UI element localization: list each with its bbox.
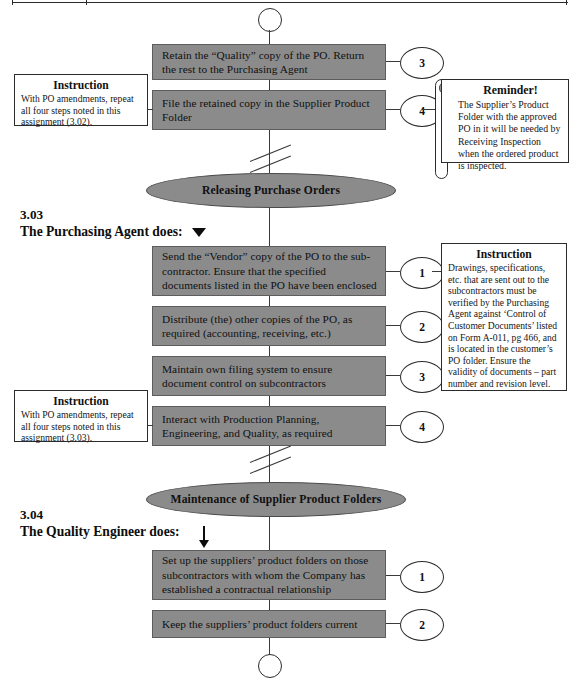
step-number-label: 1 bbox=[419, 571, 425, 583]
process-text: Interact with Production Planning, Engin… bbox=[162, 412, 377, 441]
spine-303-b bbox=[269, 346, 270, 356]
top-connector-circle bbox=[258, 8, 282, 32]
spine-304-a bbox=[269, 600, 270, 610]
num-leg-303-step3 bbox=[386, 375, 400, 376]
section-304-arrow-head-icon bbox=[199, 540, 209, 548]
process-box-304-step2[interactable]: Keep the suppliers’ product folders curr… bbox=[152, 610, 386, 638]
step-number-304-step1: 1 bbox=[400, 561, 444, 593]
note-leg-303-left bbox=[148, 425, 153, 426]
top-rule-tick-left bbox=[12, 0, 13, 5]
num-leg-303-step1 bbox=[386, 271, 400, 272]
process-text: Retain the “Quality” copy of the PO. Ret… bbox=[162, 48, 377, 77]
step-number-label: 3 bbox=[419, 371, 425, 383]
spine-stage1-out bbox=[269, 208, 270, 246]
step-number-303-step3: 3 bbox=[400, 361, 444, 393]
section-title-303: The Purchasing Agent does: bbox=[20, 224, 183, 240]
step-number-label: 4 bbox=[419, 421, 425, 433]
note-title: Instruction bbox=[21, 395, 141, 408]
stage-ellipse-maintenance-of-supplier-product-folders: Maintenance of Supplier Product Folders bbox=[146, 482, 406, 517]
process-text: Maintain own filing system to ensure doc… bbox=[162, 362, 377, 391]
reminder-body: The Supplier’s Product Folder with the a… bbox=[458, 99, 563, 172]
note-body: With PO amendments, repeat all four step… bbox=[21, 409, 141, 444]
top-rule-tick-mid bbox=[86, 0, 87, 5]
spine-top bbox=[269, 30, 270, 44]
spine-302-a bbox=[269, 80, 270, 90]
flowchart-page: Retain the “Quality” copy of the PO. Ret… bbox=[0, 0, 572, 679]
process-text: Set up the suppliers’ product folders on… bbox=[162, 553, 377, 596]
section-number-303: 3.03 bbox=[20, 207, 43, 223]
note-title: Instruction bbox=[21, 79, 141, 92]
process-text: Distribute (the) other copies of the PO,… bbox=[162, 312, 377, 341]
step-number-label: 2 bbox=[419, 619, 425, 631]
instruction-note-303-left: Instruction With PO amendments, repeat a… bbox=[14, 390, 148, 442]
process-text: File the retained copy in the Supplier P… bbox=[162, 96, 377, 125]
spine-stage2-out bbox=[269, 517, 270, 550]
note-leg-303-right bbox=[432, 271, 441, 272]
num-leg-303-step2 bbox=[386, 325, 400, 326]
step-number-304-step2: 2 bbox=[400, 609, 444, 641]
process-box-302-step3[interactable]: Retain the “Quality” copy of the PO. Ret… bbox=[152, 44, 386, 80]
instruction-note-302: Instruction With PO amendments, repeat a… bbox=[14, 74, 148, 126]
process-box-303-step2[interactable]: Distribute (the) other copies of the PO,… bbox=[152, 306, 386, 346]
step-number-303-step1: 1 bbox=[400, 257, 444, 289]
note-body: Drawings, specifications, etc. that are … bbox=[448, 262, 560, 390]
spine-303-a bbox=[269, 296, 270, 306]
num-leg-302-step3 bbox=[386, 61, 400, 62]
step-number-303-step4: 4 bbox=[400, 411, 444, 443]
section-title-304: The Quality Engineer does: bbox=[20, 524, 180, 540]
num-leg-304-step2 bbox=[386, 623, 400, 624]
spine-bottom bbox=[269, 638, 270, 655]
step-number-label: 1 bbox=[419, 267, 425, 279]
stage-label: Releasing Purchase Orders bbox=[202, 184, 340, 197]
note-leg-302 bbox=[148, 109, 153, 110]
reminder-note: Reminder! The Supplier’s Product Folder … bbox=[441, 79, 569, 163]
spine-303-c bbox=[269, 396, 270, 406]
process-text: Send the “Vendor” copy of the PO to the … bbox=[162, 249, 377, 292]
stage-label: Maintenance of Supplier Product Folders bbox=[171, 493, 382, 506]
step-number-label: 3 bbox=[419, 57, 425, 69]
reminder-leg bbox=[422, 109, 436, 110]
process-box-302-step4[interactable]: File the retained copy in the Supplier P… bbox=[152, 90, 386, 130]
stage-ellipse-releasing-purchase-orders: Releasing Purchase Orders bbox=[146, 173, 396, 208]
step-number-302-step3: 3 bbox=[400, 47, 444, 79]
process-box-303-step1[interactable]: Send the “Vendor” copy of the PO to the … bbox=[152, 246, 386, 296]
process-box-303-step4[interactable]: Interact with Production Planning, Engin… bbox=[152, 406, 386, 446]
process-text: Keep the suppliers’ product folders curr… bbox=[162, 617, 358, 631]
reminder-title: Reminder! bbox=[458, 83, 563, 98]
top-rule-tick-right bbox=[566, 0, 567, 5]
note-title: Instruction bbox=[448, 248, 560, 261]
bottom-connector-circle bbox=[258, 654, 282, 678]
page-top-rule bbox=[12, 2, 568, 3]
step-number-label: 2 bbox=[419, 321, 425, 333]
process-box-304-step1[interactable]: Set up the suppliers’ product folders on… bbox=[152, 550, 386, 600]
section-303-arrow-icon bbox=[192, 228, 206, 237]
num-leg-303-step4 bbox=[386, 425, 400, 426]
step-number-label: 4 bbox=[419, 105, 425, 117]
process-box-303-step3[interactable]: Maintain own filing system to ensure doc… bbox=[152, 356, 386, 396]
instruction-note-303-right: Instruction Drawings, specifications, et… bbox=[441, 243, 567, 391]
num-leg-302-step4 bbox=[386, 109, 400, 110]
step-number-303-step2: 2 bbox=[400, 311, 444, 343]
section-number-304: 3.04 bbox=[20, 507, 43, 523]
note-body: With PO amendments, repeat all four step… bbox=[21, 93, 141, 128]
num-leg-304-step1 bbox=[386, 575, 400, 576]
